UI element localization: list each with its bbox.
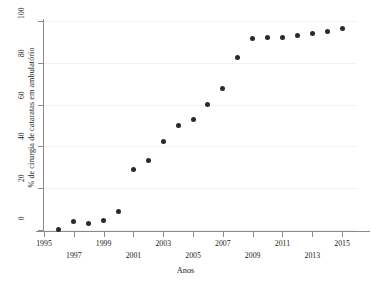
y-tick-label: 80: [17, 49, 26, 75]
y-tick-label: 40: [17, 133, 26, 159]
y-tick: [38, 21, 43, 22]
x-tick: [163, 232, 164, 237]
y-tick-label: 0: [17, 217, 26, 243]
x-tick-label: 2009: [236, 251, 270, 260]
x-tick: [223, 232, 224, 237]
y-tick-label: 100: [17, 8, 26, 34]
scan-bleedthrough-text: [60, 0, 310, 15]
data-point: [86, 221, 91, 226]
x-tick-label: 1997: [57, 251, 91, 260]
data-point: [325, 29, 330, 34]
x-tick: [74, 232, 75, 237]
data-point: [265, 35, 270, 40]
y-tick: [38, 146, 43, 147]
plot-area: [44, 21, 357, 230]
y-tick-label: 20: [17, 175, 26, 201]
x-tick: [133, 232, 134, 237]
x-tick: [282, 232, 283, 237]
x-axis-title: Anos: [0, 266, 371, 275]
data-point: [250, 36, 255, 41]
x-tick: [193, 232, 194, 237]
x-tick-label: 2015: [325, 239, 359, 248]
x-tick: [104, 232, 105, 237]
data-point: [116, 209, 121, 214]
data-point: [161, 139, 166, 144]
data-point: [310, 31, 315, 36]
data-point: [280, 35, 285, 40]
x-tick-label: 1995: [27, 239, 61, 248]
x-tick-label: 2003: [146, 239, 180, 248]
x-axis-line: [36, 231, 370, 232]
x-tick-label: 2005: [176, 251, 210, 260]
data-point: [176, 123, 181, 128]
chart-figure: % de cirurgia de cataratas em ambulatóri…: [0, 0, 371, 286]
x-tick-label: 2007: [206, 239, 240, 248]
data-point: [131, 167, 136, 172]
x-tick: [44, 232, 45, 237]
y-tick: [38, 188, 43, 189]
x-tick: [312, 232, 313, 237]
data-point: [220, 86, 225, 91]
data-point: [71, 219, 76, 224]
y-axis-title: % de cirurgia de cataratas em ambulatóri…: [27, 10, 36, 226]
data-point: [191, 117, 196, 122]
x-tick-label: 2013: [295, 251, 329, 260]
x-tick: [342, 232, 343, 237]
x-tick-label: 2001: [116, 251, 150, 260]
y-tick: [38, 230, 43, 231]
data-point: [295, 33, 300, 38]
y-tick-label: 60: [17, 91, 26, 117]
data-point: [340, 26, 345, 31]
x-tick-label: 2011: [265, 239, 299, 248]
data-point: [205, 102, 210, 107]
y-tick: [38, 63, 43, 64]
data-point: [235, 55, 240, 60]
data-point: [146, 158, 151, 163]
gridline: [44, 230, 357, 231]
x-tick-label: 1999: [87, 239, 121, 248]
data-point: [101, 218, 106, 223]
x-tick: [253, 232, 254, 237]
y-tick: [38, 105, 43, 106]
